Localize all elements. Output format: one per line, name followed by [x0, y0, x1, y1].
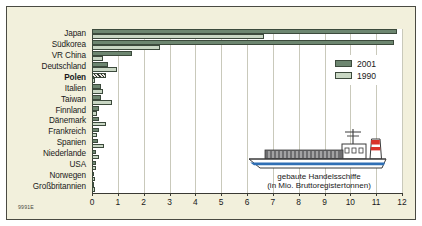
x-tick-label-7: 7 [263, 197, 283, 207]
bar-2001-norwegen [92, 172, 94, 177]
x-tick-label-5: 5 [211, 197, 231, 207]
x-tick-label-11: 11 [366, 197, 386, 207]
chart-legend: 2001 1990 [332, 55, 380, 85]
category-label-polen: Polen [8, 73, 86, 84]
x-tick-0 [92, 193, 93, 196]
bar-1990-s-dkorea [92, 45, 160, 50]
bar-row [92, 29, 402, 40]
legend-label-2001: 2001 [357, 59, 376, 69]
x-tick-5 [221, 193, 222, 196]
caption-line-2: (in Mio. Bruttoregistertonnen) [239, 181, 399, 190]
bar-1990-d-nemark [92, 122, 106, 127]
bar-row [92, 40, 402, 51]
bar-2001-finnland [92, 106, 99, 111]
bar-1990-spanien [92, 144, 104, 149]
bar-2001-deutschland [92, 62, 108, 67]
x-tick-12 [402, 193, 403, 196]
category-label-taiwan: Taiwan [8, 95, 86, 106]
bar-1990-usa [92, 166, 96, 171]
category-label-frankreich: Frankreich [8, 127, 86, 138]
x-tick-label-12: 12 [392, 197, 412, 207]
x-tick-label-1: 1 [108, 197, 128, 207]
bar-2001-d-nemark [92, 117, 99, 122]
bar-1990-niederlande [92, 155, 99, 160]
x-tick-2 [144, 193, 145, 196]
bar-2001-usa [92, 161, 96, 166]
x-tick-label-9: 9 [315, 197, 335, 207]
x-tick-11 [376, 193, 377, 196]
x-tick-9 [325, 193, 326, 196]
bar-2001-gro-britannien [92, 182, 94, 187]
bar-2001-vr-china [92, 51, 132, 56]
bar-1990-polen [92, 78, 95, 83]
bar-2001-japan [92, 29, 397, 34]
bar-1990-deutschland [92, 67, 117, 72]
x-tick-4 [195, 193, 196, 196]
bar-1990-vr-china [92, 56, 103, 61]
x-tick-label-2: 2 [134, 197, 154, 207]
bar-1990-norwegen [92, 177, 95, 182]
bar-1990-taiwan [92, 100, 112, 105]
legend-item-2001: 2001 [335, 58, 376, 69]
category-label-finnland: Finnland [8, 106, 86, 117]
category-label-spanien: Spanien [8, 138, 86, 149]
category-label-italien: Italien [8, 84, 86, 95]
category-label-d-nemark: Dänemark [8, 116, 86, 127]
bar-2001-spanien [92, 139, 98, 144]
caption-line-1: gebaute Handelsschiffe [239, 172, 399, 181]
chart-caption: gebaute Handelsschiffe (in Mio. Bruttore… [239, 172, 399, 191]
bar-2001-taiwan [92, 95, 101, 100]
bar-2001-niederlande [92, 150, 96, 155]
category-label-deutschland: Deutschland [8, 62, 86, 73]
bar-2001-polen [92, 73, 106, 78]
x-tick-label-10: 10 [340, 197, 360, 207]
bar-2001-s-dkorea [92, 40, 394, 45]
x-tick-6 [247, 193, 248, 196]
x-tick-label-6: 6 [237, 197, 257, 207]
category-label-s-dkorea: Südkorea [8, 40, 86, 51]
bar-row [92, 84, 402, 95]
x-tick-8 [299, 193, 300, 196]
bar-1990-italien [92, 89, 103, 94]
chart-figure: JapanSüdkoreaVR ChinaDeutschlandPolenIta… [0, 0, 422, 226]
category-label-usa: USA [8, 160, 86, 171]
legend-swatch-1990 [335, 72, 352, 79]
category-label-vr-china: VR China [8, 51, 86, 62]
x-tick-label-8: 8 [289, 197, 309, 207]
x-tick-10 [350, 193, 351, 196]
bar-row [92, 95, 402, 106]
x-tick-7 [273, 193, 274, 196]
bar-2001-italien [92, 84, 101, 89]
bar-1990-finnland [92, 111, 97, 116]
category-label-niederlande: Niederlande [8, 149, 86, 160]
x-tick-3 [170, 193, 171, 196]
bar-1990-japan [92, 34, 264, 39]
bar-2001-frankreich [92, 128, 99, 133]
bar-1990-frankreich [92, 133, 97, 138]
category-label-japan: Japan [8, 29, 86, 40]
bar-row [92, 106, 402, 117]
source-code-label: 9991E [18, 204, 34, 210]
cargo-ship-icon [243, 125, 395, 173]
x-tick-label-3: 3 [160, 197, 180, 207]
legend-label-1990: 1990 [357, 71, 376, 81]
x-tick-label-4: 4 [185, 197, 205, 207]
gridline-12 [402, 29, 403, 193]
chart-panel: JapanSüdkoreaVR ChinaDeutschlandPolenIta… [6, 6, 416, 220]
bar-1990-gro-britannien [92, 187, 95, 192]
legend-item-1990: 1990 [335, 70, 376, 81]
x-tick-label-0: 0 [82, 197, 102, 207]
category-label-norwegen: Norwegen [8, 171, 86, 182]
category-label-gro-britannien: Großbritannien [8, 182, 86, 193]
x-tick-1 [118, 193, 119, 196]
legend-swatch-2001 [335, 60, 352, 67]
